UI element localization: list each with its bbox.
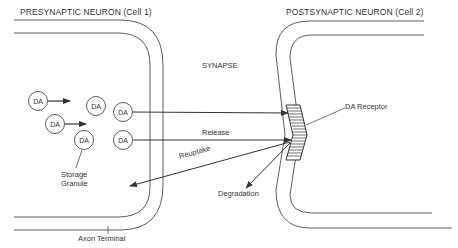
presynaptic-label: PRESYNAPTIC NEURON (Cell 1) [20, 7, 152, 17]
storage-label-2: Granule [61, 179, 88, 188]
da-receptor [286, 105, 307, 160]
receptor-label: DA Receptor [345, 102, 388, 111]
postsynaptic-label: POSTSYNAPTIC NEURON (Cell 2) [286, 7, 423, 17]
da-molecule: DA [114, 131, 133, 150]
svg-text:DA: DA [118, 137, 128, 144]
presynaptic-membrane-outer [14, 20, 163, 230]
diagram-canvas: DADADADADADA [0, 0, 458, 248]
da-molecule: DA [75, 131, 94, 150]
svg-text:DA: DA [91, 103, 101, 110]
storage-leader-line [76, 150, 82, 168]
release-label: Release [202, 128, 230, 137]
postsynaptic-membrane-inner [290, 35, 432, 213]
da-molecule: DA [46, 115, 65, 134]
synapse-diagram: DADADADADADA PRESYNAPTIC NEURON (Cell 1)… [0, 0, 458, 248]
receptor-leader-line [306, 108, 345, 125]
arrow-to-receptor-1 [133, 112, 288, 113]
da-molecules: DADADADADADA [29, 92, 133, 150]
svg-text:DA: DA [118, 109, 128, 116]
da-molecule: DA [114, 103, 133, 122]
synapse-label: SYNAPSE [202, 61, 237, 70]
presynaptic-membrane-inner [14, 33, 150, 217]
storage-label-1: Storage [61, 170, 87, 179]
arrow-degradation [246, 143, 290, 188]
svg-text:DA: DA [50, 121, 60, 128]
da-molecule: DA [87, 97, 106, 116]
axon-terminal-label: Axon Terminal [78, 234, 125, 243]
da-molecule: DA [29, 92, 48, 111]
svg-text:DA: DA [79, 137, 89, 144]
svg-text:DA: DA [33, 98, 43, 105]
degradation-label: Degradation [218, 189, 259, 198]
